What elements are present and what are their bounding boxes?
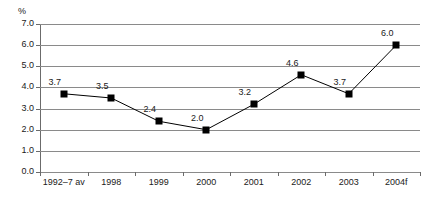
gridline [40, 109, 420, 110]
data-point-label: 3.7 [48, 77, 61, 87]
y-axis-tick [36, 66, 40, 67]
y-axis-tick-label: 3.0 [21, 104, 34, 113]
gridline [40, 24, 420, 25]
x-axis-tick [420, 172, 421, 176]
x-axis-tick-label: 2004f [385, 177, 408, 187]
plot-area [40, 24, 420, 172]
data-point-label: 3.7 [333, 77, 346, 87]
x-axis-tick [230, 172, 231, 176]
data-point-marker [345, 90, 352, 97]
y-axis-tick-label: 5.0 [21, 61, 34, 70]
x-axis-tick-label: 2002 [291, 177, 311, 187]
y-axis-tick [36, 45, 40, 46]
data-point-marker [393, 42, 400, 49]
line-chart: % 0.01.02.03.04.05.06.07.0 1992–7 av1998… [0, 0, 434, 199]
data-point-marker [250, 101, 257, 108]
y-axis-tick [36, 24, 40, 25]
data-point-label: 4.6 [286, 58, 299, 68]
x-axis-tick-label: 2003 [339, 177, 359, 187]
data-point-marker [60, 90, 67, 97]
y-axis-tick [36, 151, 40, 152]
data-point-label: 3.5 [96, 81, 109, 91]
gridline [40, 130, 420, 131]
y-axis-tick-label: 2.0 [21, 125, 34, 134]
data-point-label: 2.4 [143, 104, 156, 114]
data-point-label: 6.0 [381, 28, 394, 38]
x-axis-tick-label: 1998 [101, 177, 121, 187]
x-axis-tick [373, 172, 374, 176]
x-axis-tick [325, 172, 326, 176]
y-axis-tick-label: 7.0 [21, 19, 34, 28]
x-axis-tick-label: 1999 [149, 177, 169, 187]
x-axis-tick [183, 172, 184, 176]
x-axis-tick [40, 172, 41, 176]
y-axis-tick [36, 87, 40, 88]
gridline [40, 66, 420, 67]
y-axis-tick [36, 109, 40, 110]
data-point-label: 2.0 [191, 113, 204, 123]
x-axis-tick-label: 1992–7 av [43, 177, 85, 187]
gridline [40, 151, 420, 152]
x-axis-tick [135, 172, 136, 176]
data-point-marker [203, 126, 210, 133]
gridline [40, 45, 420, 46]
data-point-marker [298, 71, 305, 78]
data-point-marker [155, 118, 162, 125]
x-axis-tick [278, 172, 279, 176]
y-axis-tick-label: 4.0 [21, 82, 34, 91]
x-axis-tick-label: 2001 [244, 177, 264, 187]
x-axis-tick-label: 2000 [196, 177, 216, 187]
y-axis-tick-label: 6.0 [21, 40, 34, 49]
y-axis-tick-label: 0.0 [21, 167, 34, 176]
y-axis-tick-labels: 0.01.02.03.04.05.06.07.0 [0, 0, 34, 199]
y-axis-tick-label: 1.0 [21, 146, 34, 155]
data-point-marker [108, 95, 115, 102]
y-axis-tick [36, 130, 40, 131]
x-axis-tick [88, 172, 89, 176]
data-point-label: 3.2 [238, 87, 251, 97]
